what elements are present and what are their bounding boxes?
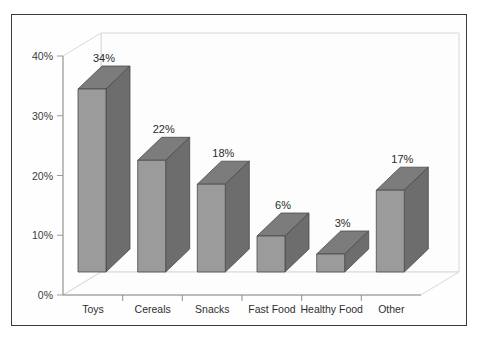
bar-cereals-front <box>138 160 166 272</box>
bar-cereals[interactable] <box>138 137 190 272</box>
bar-cereals-side <box>166 137 190 272</box>
chart-frame: 40% 30% 20% 10% 0% <box>11 14 467 326</box>
bar-value-cereals: 22% <box>153 123 175 135</box>
category-label-cereals: Cereals <box>135 303 171 315</box>
y-tick-label-20: 20% <box>32 170 53 182</box>
bar-toys-side <box>106 66 130 272</box>
bar-other-front <box>376 190 404 272</box>
x-tick-group <box>123 295 362 301</box>
y-tick-group: 40% 30% 20% 10% 0% <box>32 50 63 301</box>
bar-toys-front <box>78 89 106 272</box>
bar-fast-food-front <box>257 236 285 272</box>
bar-toys[interactable] <box>78 66 130 272</box>
bar-value-toys: 34% <box>93 52 115 64</box>
y-tick-label-0: 0% <box>38 289 53 301</box>
y-tick-label-40: 40% <box>32 50 53 62</box>
bar-value-healthy-food: 3% <box>335 217 351 229</box>
category-label-healthy-food: Healthy Food <box>300 303 363 315</box>
bar-value-snacks: 18% <box>212 147 234 159</box>
y-tick-label-10: 10% <box>32 229 53 241</box>
screenshot-root: 40% 30% 20% 10% 0% <box>0 0 491 341</box>
bar-chart-3d: 40% 30% 20% 10% 0% <box>12 15 465 324</box>
bar-healthy-food-front <box>317 254 345 272</box>
category-label-snacks: Snacks <box>195 303 229 315</box>
category-label-fast-food: Fast Food <box>248 303 295 315</box>
category-label-other: Other <box>378 303 405 315</box>
floor-plane <box>63 272 459 295</box>
y-tick-label-30: 30% <box>32 110 53 122</box>
bar-value-fast-food: 6% <box>275 199 291 211</box>
bar-value-other: 17% <box>391 153 413 165</box>
category-labels: Toys Cereals Snacks Fast Food Healthy Fo… <box>82 303 405 315</box>
category-label-toys: Toys <box>82 303 104 315</box>
bar-other[interactable] <box>376 167 428 272</box>
bar-snacks-front <box>197 184 225 272</box>
bar-snacks[interactable] <box>197 161 249 272</box>
